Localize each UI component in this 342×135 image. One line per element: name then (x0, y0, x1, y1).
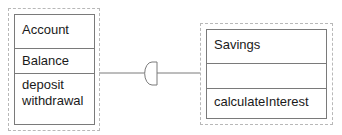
savings-name-section: Savings (207, 30, 326, 63)
savings-class[interactable]: Savings calculateInterest (206, 29, 327, 119)
class-name: Savings (214, 37, 260, 52)
account-operations-section: deposit withdrawal (15, 73, 94, 125)
account-name-section: Account (15, 15, 94, 48)
attribute: Balance (22, 53, 69, 68)
savings-operations-section: calculateInterest (207, 88, 326, 119)
socket-icon (145, 62, 157, 85)
account-attributes-section: Balance (15, 48, 94, 73)
savings-attributes-section (207, 63, 326, 88)
operation: calculateInterest (214, 94, 309, 109)
operation: withdrawal (22, 93, 94, 109)
account-class[interactable]: Account Balance deposit withdrawal (14, 14, 95, 125)
class-name: Account (22, 22, 69, 37)
operation: deposit (22, 77, 94, 93)
